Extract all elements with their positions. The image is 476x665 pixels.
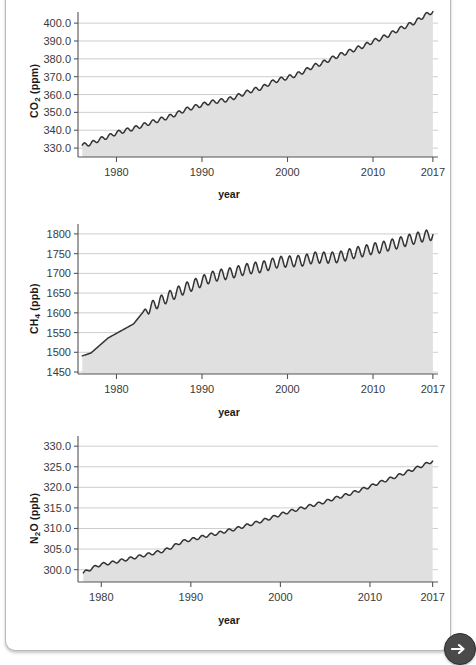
svg-text:1980: 1980 [104, 383, 128, 395]
svg-text:1750: 1750 [47, 248, 71, 260]
svg-text:1980: 1980 [89, 591, 113, 603]
svg-text:2017: 2017 [420, 591, 444, 603]
chart-ch4-x-axis-title: year [6, 406, 451, 418]
chart-co2-y-axis-title: CO2 (ppm) [28, 64, 40, 118]
svg-text:2017: 2017 [421, 383, 445, 395]
next-page-button[interactable] [444, 633, 476, 665]
chart-ch4: 1450150015501600165017001750180019801990… [6, 206, 451, 422]
chart-n2o-x-axis-title: year [6, 614, 451, 626]
chart-ch4-y-axis-title: CH4 (ppb) [28, 283, 40, 334]
chart-co2-x-axis-title: year [6, 188, 451, 200]
chart-ch4-plot: 1450150015501600165017001750180019801990… [6, 206, 451, 422]
svg-text:2000: 2000 [275, 166, 299, 178]
svg-text:315.0: 315.0 [43, 502, 71, 514]
page-card: Atmospheric concentrations of carbon dio… [5, 0, 451, 651]
svg-text:1600: 1600 [47, 307, 71, 319]
svg-text:320.0: 320.0 [43, 481, 71, 493]
svg-text:1650: 1650 [47, 287, 71, 299]
svg-text:380.0: 380.0 [43, 53, 71, 65]
chart-n2o-plot: 300.0305.0310.0315.0320.0325.0330.019801… [6, 422, 451, 627]
chart-co2-plot: 330.0340.0350.0360.0370.0380.0390.0400.0… [6, 0, 451, 206]
chart-n2o: 300.0305.0310.0315.0320.0325.0330.019801… [6, 422, 451, 627]
svg-text:1990: 1990 [179, 591, 203, 603]
svg-text:1980: 1980 [104, 166, 128, 178]
svg-text:330.0: 330.0 [43, 142, 71, 154]
svg-text:1550: 1550 [47, 327, 71, 339]
svg-text:1800: 1800 [47, 228, 71, 240]
svg-text:1990: 1990 [190, 383, 214, 395]
svg-text:1700: 1700 [47, 267, 71, 279]
svg-text:340.0: 340.0 [43, 124, 71, 136]
svg-text:370.0: 370.0 [43, 71, 71, 83]
svg-text:360.0: 360.0 [43, 89, 71, 101]
svg-text:1500: 1500 [47, 346, 71, 358]
chart-n2o-y-axis-title: N2O (ppb) [28, 493, 40, 544]
svg-text:2010: 2010 [358, 591, 382, 603]
svg-text:2017: 2017 [421, 166, 445, 178]
svg-text:400.0: 400.0 [43, 17, 71, 29]
svg-text:2010: 2010 [361, 383, 385, 395]
svg-text:325.0: 325.0 [43, 461, 71, 473]
chart-co2: 330.0340.0350.0360.0370.0380.0390.0400.0… [6, 0, 451, 206]
svg-text:390.0: 390.0 [43, 35, 71, 47]
svg-text:305.0: 305.0 [43, 543, 71, 555]
svg-text:2000: 2000 [275, 383, 299, 395]
svg-text:1450: 1450 [47, 366, 71, 378]
svg-text:300.0: 300.0 [43, 564, 71, 576]
svg-text:310.0: 310.0 [43, 522, 71, 534]
svg-text:2010: 2010 [361, 166, 385, 178]
svg-text:350.0: 350.0 [43, 106, 71, 118]
svg-text:330.0: 330.0 [43, 440, 71, 452]
svg-text:1990: 1990 [190, 166, 214, 178]
svg-text:2000: 2000 [268, 591, 292, 603]
